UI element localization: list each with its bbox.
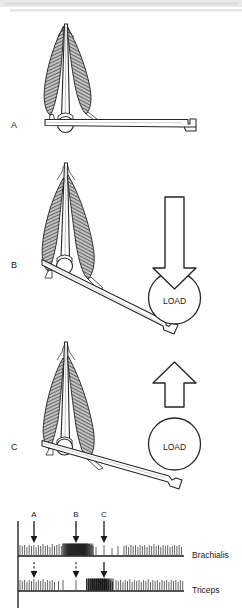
panel-b-load: LOAD: [149, 197, 201, 324]
panel-a-brachialis-muscle: [68, 27, 103, 123]
emg-trace-triceps: Triceps: [18, 579, 220, 596]
panel-b: LOAD B: [11, 163, 201, 334]
emg-marker-b-label: B: [73, 510, 78, 519]
emg-marker-a: A: [31, 510, 38, 543]
panel-b-load-label: LOAD: [163, 296, 186, 306]
emg-marker-b-triceps: [73, 562, 80, 578]
emg-marker-c: C: [101, 510, 108, 543]
emg-marker-a-triceps: [31, 562, 38, 578]
panel-c-up-arrow: [153, 362, 196, 407]
emg-panel: A B C: [18, 510, 229, 608]
panel-a-label: A: [11, 120, 17, 130]
panel-b-down-arrow: [153, 197, 196, 289]
panel-c-label: C: [11, 442, 18, 452]
muscle-load-emg-figure: A LOAD: [0, 0, 242, 615]
panel-a-triceps-muscle: [44, 26, 64, 121]
panel-c-load: LOAD: [149, 362, 201, 470]
emg-trace-triceps-label: Triceps: [192, 585, 220, 595]
emg-marker-c-triceps: [101, 562, 108, 578]
emg-marker-a-label: A: [31, 510, 37, 519]
emg-marker-c-label: C: [101, 510, 107, 519]
emg-trace-brachialis: Brachialis: [18, 544, 229, 561]
emg-marker-b: B: [73, 510, 80, 543]
emg-trace-brachialis-label: Brachialis: [192, 550, 229, 560]
panel-c-load-label: LOAD: [163, 442, 186, 452]
panel-c: LOAD C: [11, 342, 201, 489]
panel-b-brachialis-muscle: [68, 166, 104, 290]
panel-b-label: B: [11, 260, 17, 270]
top-title-bar: [0, 0, 242, 12]
panel-a: A: [11, 24, 196, 133]
